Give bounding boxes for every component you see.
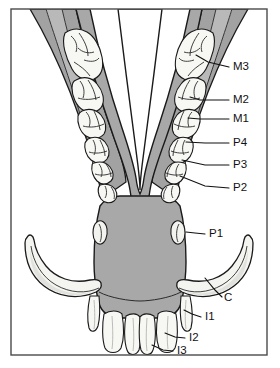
mandible-diagram: M3 M2 M1 P4 P3 P2 P1 C I1 I2 I3 bbox=[0, 0, 280, 368]
label-i1: I1 bbox=[205, 310, 215, 322]
label-p2: P2 bbox=[233, 181, 247, 193]
label-i2: I2 bbox=[189, 331, 199, 343]
tooth-left-i3 bbox=[125, 314, 141, 355]
label-c: C bbox=[224, 291, 232, 303]
figure-container: M3 M2 M1 P4 P3 P2 P1 C I1 I2 I3 bbox=[0, 0, 280, 368]
tooth-right-i3 bbox=[139, 314, 155, 355]
label-p1: P1 bbox=[209, 227, 223, 239]
label-p3: P3 bbox=[233, 158, 247, 170]
label-m1: M1 bbox=[233, 112, 249, 124]
label-i3: I3 bbox=[177, 344, 187, 356]
mandible-symphysis-pad bbox=[94, 196, 186, 318]
illustration-area bbox=[11, 9, 267, 355]
label-p4: P4 bbox=[233, 136, 248, 148]
label-m3: M3 bbox=[233, 60, 249, 72]
label-m2: M2 bbox=[233, 93, 249, 105]
